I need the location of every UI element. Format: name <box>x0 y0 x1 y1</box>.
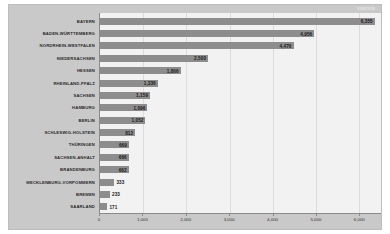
axis-tick-label: 0 <box>98 217 100 222</box>
bar[interactable]: 4,956 <box>100 30 314 37</box>
bar[interactable]: 669 <box>100 141 129 148</box>
bar[interactable]: 233 <box>100 191 110 198</box>
category-label: SCHLESWIG-HOLSTEIN <box>44 130 95 135</box>
bar-value-label: 333 <box>116 180 124 185</box>
category-label: BERLIN <box>79 118 96 123</box>
axis-tick <box>316 213 317 216</box>
bar-row: 2,500 <box>100 52 381 64</box>
bar[interactable]: 1,866 <box>100 67 181 74</box>
axis-tick <box>229 213 230 216</box>
bar-value-label: 233 <box>112 192 120 197</box>
value-axis: 01,0002,0003,0004,0005,0006,000 <box>99 213 381 229</box>
axis-tick-label: 6,000 <box>354 217 365 222</box>
bar-value-label: 669 <box>119 142 127 147</box>
bar[interactable]: 662 <box>100 166 129 173</box>
category-label-row: SAARLAND <box>23 201 99 213</box>
category-label-row: BADEN-WÜRTTEMBERG <box>23 27 99 39</box>
bar-series: 6,3554,9564,4762,5001,8661,3361,1591,096… <box>100 13 381 213</box>
bar[interactable]: 171 <box>100 203 107 210</box>
bar-value-label: 1,159 <box>136 93 148 98</box>
axis-tick <box>142 213 143 216</box>
bar[interactable]: 1,159 <box>100 92 150 99</box>
category-label-row: BRANDENBURG <box>23 164 99 176</box>
bar-row: 666 <box>100 151 381 163</box>
category-label-row: NIEDERSACHSEN <box>23 52 99 64</box>
bar-row: 233 <box>100 188 381 200</box>
axis-tick-label: 4,000 <box>267 217 278 222</box>
category-label: NORDRHEIN-WESTFALEN <box>40 43 95 48</box>
bar-value-label: 4,476 <box>280 43 292 48</box>
bar[interactable]: 1,336 <box>100 80 158 87</box>
category-label-row: THÜRINGEN <box>23 139 99 151</box>
axis-tick <box>186 213 187 216</box>
bar-value-label: 1,052 <box>131 118 143 123</box>
category-axis: BAYERNBADEN-WÜRTTEMBERGNORDRHEIN-WESTFAL… <box>23 13 99 213</box>
chart-screenshot: statista BAYERNBADEN-WÜRTTEMBERGNORDRHEI… <box>0 0 390 234</box>
bar-value-label: 2,500 <box>194 56 206 61</box>
bar-row: 812 <box>100 126 381 138</box>
axis-tick-label: 3,000 <box>224 217 235 222</box>
category-label-row: RHEINLAND-PFALZ <box>23 77 99 89</box>
bar-row: 171 <box>100 201 381 213</box>
axis-tick <box>359 213 360 216</box>
axis-tick-label: 1,000 <box>137 217 148 222</box>
category-label: SAARLAND <box>70 204 95 209</box>
axis-tick <box>99 213 100 216</box>
bar-row: 1,052 <box>100 114 381 126</box>
bar-row: 662 <box>100 164 381 176</box>
category-label: HESSEN <box>77 68 95 73</box>
category-label: MECKLENBURG-VORPOMMERN <box>26 180 95 185</box>
axis-tick <box>273 213 274 216</box>
category-label-row: SACHSEN-ANHALT <box>23 151 99 163</box>
bar-value-label: 1,096 <box>133 105 145 110</box>
bar-row: 4,956 <box>100 27 381 39</box>
bar-value-label: 1,336 <box>144 81 156 86</box>
category-label-row: SCHLESWIG-HOLSTEIN <box>23 126 99 138</box>
category-label-row: HESSEN <box>23 65 99 77</box>
bar-value-label: 6,355 <box>361 19 373 24</box>
bar-row: 1,866 <box>100 65 381 77</box>
bar[interactable]: 1,052 <box>100 117 145 124</box>
bar[interactable]: 666 <box>100 154 129 161</box>
category-label: BREMEN <box>76 192 95 197</box>
category-label: BRANDENBURG <box>60 167 95 172</box>
bar[interactable]: 333 <box>100 179 114 186</box>
bar-row: 1,159 <box>100 89 381 101</box>
bar-row: 4,476 <box>100 40 381 52</box>
bar-value-label: 171 <box>109 204 117 209</box>
bar-row: 1,096 <box>100 102 381 114</box>
bar[interactable]: 812 <box>100 129 135 136</box>
category-label: BADEN-WÜRTTEMBERG <box>43 31 95 36</box>
bar[interactable]: 4,476 <box>100 42 294 49</box>
category-label: SACHSEN-ANHALT <box>54 155 95 160</box>
bar-value-label: 4,956 <box>300 31 312 36</box>
category-label: SACHSEN <box>73 93 95 98</box>
category-label-row: BAYERN <box>23 15 99 27</box>
bar-value-label: 1,866 <box>167 68 179 73</box>
category-label: BAYERN <box>77 19 95 24</box>
bar[interactable]: 2,500 <box>100 55 208 62</box>
category-label-row: MECKLENBURG-VORPOMMERN <box>23 176 99 188</box>
axis-tick-label: 2,000 <box>180 217 191 222</box>
bar-value-label: 666 <box>119 155 127 160</box>
category-label-row: BERLIN <box>23 114 99 126</box>
watermark-label: statista <box>357 5 375 11</box>
bar[interactable]: 1,096 <box>100 104 147 111</box>
plot-area: 6,3554,9564,4762,5001,8661,3361,1591,096… <box>99 13 381 213</box>
category-label: THÜRINGEN <box>69 142 95 147</box>
axis-line <box>99 213 381 214</box>
category-label-row: BREMEN <box>23 188 99 200</box>
bar-value-label: 812 <box>125 130 133 135</box>
category-label: NIEDERSACHSEN <box>57 56 95 61</box>
category-label-row: SACHSEN <box>23 89 99 101</box>
category-label: HAMBURG <box>72 105 95 110</box>
category-label: RHEINLAND-PFALZ <box>53 81 95 86</box>
bar-chart: BAYERNBADEN-WÜRTTEMBERGNORDRHEIN-WESTFAL… <box>23 13 385 231</box>
category-label-row: NORDRHEIN-WESTFALEN <box>23 40 99 52</box>
category-label-row: HAMBURG <box>23 102 99 114</box>
bar[interactable]: 6,355 <box>100 18 375 25</box>
bar-value-label: 662 <box>119 167 127 172</box>
chart-frame: statista BAYERNBADEN-WÜRTTEMBERGNORDRHEI… <box>8 4 382 230</box>
axis-tick-label: 5,000 <box>310 217 321 222</box>
bar-row: 1,336 <box>100 77 381 89</box>
